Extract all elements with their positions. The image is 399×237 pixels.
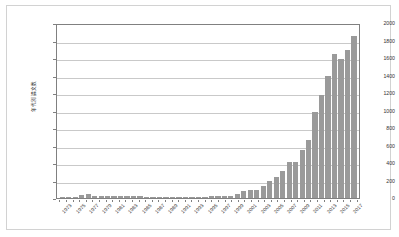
bar: [99, 196, 104, 198]
x-axis-tick-label: 2007: [286, 203, 297, 214]
x-axis-tick-label: 2015: [339, 203, 350, 214]
x-axis-tick-mark: [99, 200, 100, 202]
bar: [163, 197, 168, 198]
x-axis-tick-label: 2011: [313, 203, 324, 214]
x-axis-tick-mark: [244, 200, 245, 202]
bar: [157, 197, 162, 198]
x-axis-tick-label: 2003: [260, 203, 271, 214]
y-axis-tick-mark: [53, 147, 56, 148]
y-axis-tick-label: 1200: [347, 91, 399, 96]
x-axis-tick-mark: [158, 200, 159, 202]
x-axis-tick-label: 2009: [299, 203, 310, 214]
y-axis-tick-label: 800: [347, 126, 399, 131]
x-axis-tick-label: 1989: [167, 203, 178, 214]
x-axis-tick-label: 1985: [141, 203, 152, 214]
bar: [73, 197, 78, 198]
bar: [325, 76, 330, 198]
x-axis-tick-mark: [92, 200, 93, 202]
x-axis-tick-mark: [73, 200, 74, 202]
bar: [332, 54, 337, 198]
x-axis-tick-mark: [304, 200, 305, 202]
y-axis-tick-label: 200: [347, 179, 399, 184]
x-axis-labels: 1973197519771979198119831985198719891991…: [56, 200, 360, 234]
y-axis-tick-mark: [53, 42, 56, 43]
x-axis-tick-label: 1997: [220, 203, 231, 214]
x-axis-tick-mark: [106, 200, 107, 202]
bar: [124, 196, 129, 198]
x-axis-tick-label: 1977: [88, 203, 99, 214]
x-axis-tick-mark: [218, 200, 219, 202]
x-axis-tick-mark: [277, 200, 278, 202]
bar: [345, 50, 350, 198]
y-axis-tick-mark: [53, 59, 56, 60]
x-axis-tick-mark: [324, 200, 325, 202]
bar: [319, 95, 324, 198]
bar: [241, 191, 246, 198]
bar: [131, 196, 136, 198]
x-axis-tick-mark: [258, 200, 259, 202]
bar: [235, 194, 240, 198]
x-axis-tick-label: 1987: [154, 203, 165, 214]
x-axis-tick-mark: [86, 200, 87, 202]
x-axis-tick-mark: [297, 200, 298, 202]
x-axis-tick-label: 2005: [273, 203, 284, 214]
y-axis-tick-label: 400: [347, 161, 399, 166]
x-axis-tick-mark: [145, 200, 146, 202]
x-axis-tick-mark: [343, 200, 344, 202]
y-axis-tick-mark: [53, 112, 56, 113]
x-axis-tick-label: 1973: [62, 203, 73, 214]
bar: [170, 197, 175, 198]
x-axis-tick-mark: [205, 200, 206, 202]
x-axis-tick-mark: [191, 200, 192, 202]
x-axis-tick-mark: [79, 200, 80, 202]
x-axis-tick-mark: [112, 200, 113, 202]
bar: [300, 150, 305, 198]
x-axis-tick-mark: [231, 200, 232, 202]
x-axis-tick-mark: [125, 200, 126, 202]
y-axis-tick-mark: [53, 199, 56, 200]
x-axis-tick-mark: [330, 200, 331, 202]
y-axis-tick-label: 1000: [347, 109, 399, 114]
x-axis-tick-mark: [66, 200, 67, 202]
x-axis-tick-label: 1983: [128, 203, 139, 214]
y-axis-tick-label: 1800: [347, 39, 399, 44]
bar: [222, 196, 227, 198]
x-axis-tick-mark: [172, 200, 173, 202]
y-axis-tick-mark: [53, 182, 56, 183]
x-axis-tick-label: 1993: [194, 203, 205, 214]
y-axis-tick-label: 1600: [347, 56, 399, 61]
bar: [254, 190, 259, 198]
x-axis-tick-mark: [198, 200, 199, 202]
bar: [176, 197, 181, 198]
bar-chart: 年代別論文数 197319751977197919811983198519871…: [0, 0, 399, 237]
x-axis-tick-mark: [337, 200, 338, 202]
x-axis-tick-mark: [132, 200, 133, 202]
bar: [86, 194, 91, 198]
bar: [66, 197, 71, 198]
y-axis-tick-mark: [53, 24, 56, 25]
bar: [196, 197, 201, 198]
x-axis-tick-label: 1995: [207, 203, 218, 214]
bar: [267, 181, 272, 198]
bar: [228, 196, 233, 198]
x-axis-tick-label: 1981: [114, 203, 125, 214]
bar: [118, 196, 123, 198]
y-axis-tick-label: 0: [347, 196, 399, 201]
x-axis-tick-mark: [152, 200, 153, 202]
plot-area: [56, 24, 360, 199]
x-axis-tick-mark: [139, 200, 140, 202]
x-axis-tick-mark: [211, 200, 212, 202]
bar: [111, 196, 116, 198]
bar: [183, 197, 188, 198]
y-axis-tick-label: 1400: [347, 74, 399, 79]
x-axis-tick-mark: [271, 200, 272, 202]
bar: [312, 112, 317, 198]
bar: [248, 190, 253, 198]
x-axis-tick-label: 2001: [247, 203, 258, 214]
bar: [60, 197, 65, 198]
x-axis-tick-mark: [317, 200, 318, 202]
bar: [338, 59, 343, 198]
bar: [92, 196, 97, 198]
x-axis-tick-mark: [185, 200, 186, 202]
x-axis-tick-label: 1975: [75, 203, 86, 214]
